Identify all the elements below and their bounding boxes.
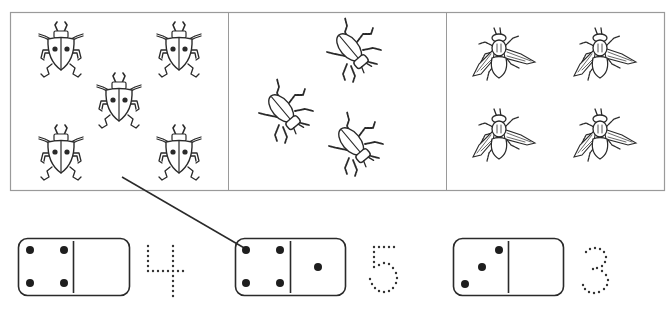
- fly-icon: [574, 28, 636, 80]
- trace-number-5[interactable]: [369, 246, 398, 293]
- fly-icon: [574, 109, 636, 161]
- trace-number-3[interactable]: [582, 247, 609, 294]
- trace-number-4[interactable]: [147, 245, 184, 297]
- fly-icon: [473, 28, 535, 80]
- domino-pips: [461, 246, 503, 288]
- ladybug-icon: [157, 22, 201, 77]
- domino-pips: [26, 246, 68, 287]
- ladybug-icon: [97, 73, 141, 128]
- ladybug-icon: [157, 125, 201, 180]
- beetle-icon: [327, 18, 381, 82]
- beetle-icon: [329, 112, 383, 176]
- worksheet: [0, 0, 671, 311]
- domino-1[interactable]: [19, 239, 130, 296]
- domino-pips: [242, 246, 322, 287]
- match-line[interactable]: [122, 177, 246, 249]
- fly-icon: [473, 109, 535, 161]
- domino-3[interactable]: [454, 239, 564, 296]
- ladybug-icon: [39, 125, 83, 180]
- domino-2[interactable]: [236, 239, 346, 296]
- beetle-icon: [259, 79, 313, 143]
- group-flies[interactable]: [473, 28, 636, 161]
- group-beetles[interactable]: [259, 18, 383, 176]
- group-ladybugs[interactable]: [39, 22, 201, 180]
- ladybug-icon: [39, 22, 83, 77]
